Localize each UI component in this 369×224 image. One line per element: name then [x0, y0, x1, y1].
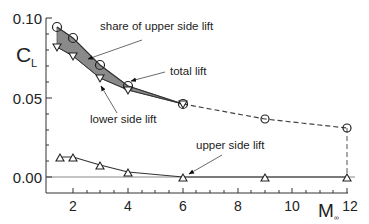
upper-side-share-region [57, 27, 183, 104]
y-tick-labels: 0.10 0.05 0.00 [13, 10, 42, 186]
total-lift-dashed-line [183, 104, 347, 128]
x-axis-label-sub: ∞ [334, 214, 339, 221]
lift-coefficient-chart: 0.10 0.05 0.00 2 4 6 8 10 12 C L M ∞ [0, 0, 369, 224]
annotation-share-of-upper-side-lift: share of upper side lift [100, 20, 214, 32]
y-axis-label-main: C [16, 43, 31, 66]
y-tick-label: 0.10 [13, 10, 42, 27]
x-tick-label: 6 [179, 198, 187, 214]
x-tick-label: 2 [69, 198, 77, 214]
y-tick-label: 0.05 [13, 90, 42, 107]
annotation-upper-side-lift: upper side lift [196, 139, 265, 151]
x-tick-label: 4 [124, 198, 132, 214]
x-axis-label: M ∞ [318, 200, 339, 221]
x-tick-label: 8 [234, 198, 242, 214]
x-tick-label: 10 [284, 198, 300, 214]
y-tick-label: 0.00 [13, 169, 42, 186]
x-tick-label: 12 [342, 198, 358, 214]
axes [46, 18, 355, 193]
annotations: share of upper side lift total lift lowe… [88, 20, 265, 174]
y-axis-label-sub: L [31, 57, 37, 69]
x-tick-labels: 2 4 6 8 10 12 [69, 198, 358, 214]
total-lift-line [57, 27, 183, 104]
annotation-lower-side-lift: lower side lift [90, 113, 157, 125]
x-axis-label-main: M [318, 200, 334, 221]
annotation-total-lift: total lift [170, 65, 207, 77]
y-axis-label: C L [16, 43, 37, 69]
